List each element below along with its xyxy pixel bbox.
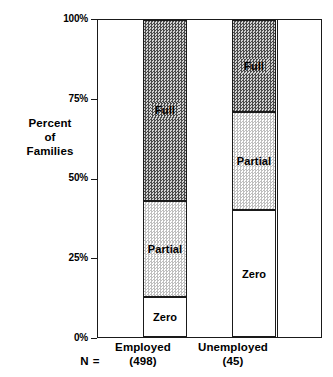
bar-unemployed-segment-zero-label: Zero (242, 268, 266, 280)
bar-employed-segment-zero[interactable]: Zero (143, 297, 187, 337)
bar-employed-segment-partial[interactable]: Partial (143, 201, 187, 298)
stacked-bar-chart: Percent of Families 100% 75% 50% 25% 0% … (0, 0, 333, 377)
bar-unemployed-segment-zero[interactable]: Zero (232, 210, 276, 337)
category-label-employed: Employed (96, 341, 190, 353)
y-axis-title-line-1: Percent (8, 116, 92, 130)
bar-unemployed-segment-partial[interactable]: Partial (232, 112, 276, 210)
y-axis-title: Percent of Families (8, 116, 92, 158)
bar-employed-segment-full-label: Full (155, 104, 175, 116)
y-tick-label-50: 50% (48, 172, 88, 183)
y-tick-mark-0 (91, 338, 97, 339)
bar-employed-segment-partial-label: Partial (148, 243, 182, 255)
bar-employed-segment-zero-label: Zero (153, 311, 177, 323)
cell-divider-3 (277, 20, 278, 337)
y-tick-label-25: 25% (48, 252, 88, 263)
category-n-unemployed: (45) (183, 355, 283, 367)
y-tick-label-100: 100% (48, 13, 88, 24)
plot-area: Full Partial Zero Full Partial Zero (97, 19, 322, 338)
y-axis-title-line-3: Families (8, 144, 92, 158)
bar-unemployed-segment-full-label: Full (244, 60, 264, 72)
y-tick-label-75: 75% (48, 93, 88, 104)
bar-unemployed-segment-partial-label: Partial (237, 155, 271, 167)
category-label-unemployed: Unemployed (183, 341, 283, 353)
bar-unemployed[interactable]: Full Partial Zero (232, 20, 276, 337)
y-tick-label-0: 0% (48, 332, 88, 343)
category-n-employed: (498) (96, 355, 190, 367)
bar-employed-segment-full[interactable]: Full (143, 20, 187, 201)
bar-employed[interactable]: Full Partial Zero (143, 20, 187, 337)
y-axis-title-line-2: of (8, 130, 92, 144)
n-prefix-label: N = (54, 355, 100, 367)
bar-unemployed-segment-full[interactable]: Full (232, 20, 276, 112)
